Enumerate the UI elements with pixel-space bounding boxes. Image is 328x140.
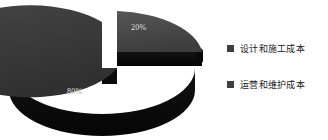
legend-swatch-icon [227,45,234,52]
legend-item-operating-maintenance[interactable]: 运营和维护成本 [227,78,328,90]
pie-data-label-80: 80% [67,87,82,96]
pie-slice-design-construction [117,11,203,66]
legend-item-label: 运营和维护成本 [240,78,305,91]
legend-item-label: 设计和施工成本 [240,42,305,55]
pie-chart-plot-area: 20% 80% [0,0,215,140]
legend-swatch-icon [227,81,234,88]
legend-item-design-construction[interactable]: 设计和施工成本 [227,42,328,54]
pie-slice-side-wall-20 [117,52,202,66]
chart-legend: 设计和施工成本 运营和维护成本 [227,42,328,114]
pie-chart-graphic [0,0,215,140]
pie-chart-figure: 20% 80% 设计和施工成本 运营和维护成本 [0,0,328,140]
pie-slice-top-face-80 [0,5,117,97]
pie-slice-top-face-20 [117,11,202,52]
pie-data-label-20: 20% [131,23,146,32]
